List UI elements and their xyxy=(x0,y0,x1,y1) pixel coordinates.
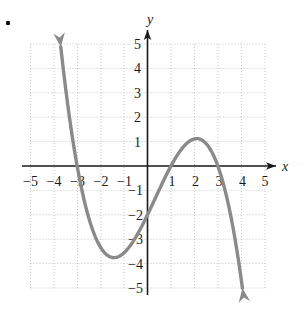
x-tick-label: −5 xyxy=(23,174,38,189)
y-tick-label: −2 xyxy=(128,208,143,223)
curve-arrow-down xyxy=(53,32,65,46)
x-tick-label: 4 xyxy=(239,174,246,189)
x-axis xyxy=(22,162,276,170)
x-tick-label: 1 xyxy=(169,174,176,189)
coordinate-plane: x y −5 −4 −3 −2 −1 1 2 3 4 5 5 4 3 2 1 −… xyxy=(0,0,304,309)
curve-arrow-up xyxy=(239,288,251,303)
x-tick-label: −4 xyxy=(47,174,62,189)
curve-group xyxy=(53,32,250,302)
bullet-marker xyxy=(6,21,10,25)
y-tick-label: −4 xyxy=(128,257,143,272)
y-tick-label: 4 xyxy=(134,61,141,76)
y-axis xyxy=(144,30,152,295)
y-tick-label: 1 xyxy=(134,135,141,150)
y-tick-label: 3 xyxy=(134,86,141,101)
cubic-curve xyxy=(61,47,243,289)
y-tick-label: −5 xyxy=(128,281,143,296)
y-axis-label: y xyxy=(145,12,154,27)
x-tick-label: 5 xyxy=(262,174,269,189)
x-tick-label: 2 xyxy=(192,174,199,189)
y-tick-label: 5 xyxy=(134,37,141,52)
x-tick-label: −2 xyxy=(94,174,109,189)
graph-figure: x y −5 −4 −3 −2 −1 1 2 3 4 5 5 4 3 2 1 −… xyxy=(0,0,304,309)
x-axis-label: x xyxy=(281,159,289,174)
y-tick-label: −1 xyxy=(128,183,143,198)
y-tick-label: 2 xyxy=(134,110,141,125)
x-tick-labels: −5 −4 −3 −2 −1 1 2 3 4 5 xyxy=(23,174,268,189)
